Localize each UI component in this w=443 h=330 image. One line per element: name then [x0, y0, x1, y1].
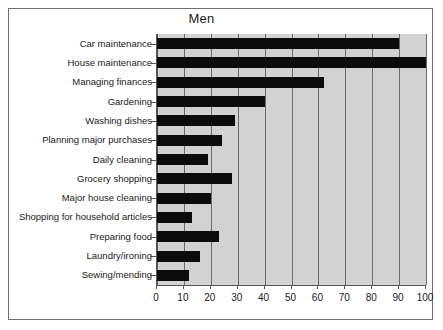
category-label: Washing dishes — [6, 115, 152, 126]
category-label: Shopping for household articles — [6, 211, 152, 222]
x-gridline — [292, 34, 293, 285]
x-gridline — [372, 34, 373, 285]
category-label: Major house cleaning — [6, 192, 152, 203]
x-tick-label: 30 — [222, 292, 252, 303]
x-tick-mark — [156, 285, 157, 289]
x-tick-label: 40 — [249, 292, 279, 303]
y-tick-mark — [150, 256, 156, 257]
bar — [157, 135, 222, 146]
x-tick-mark — [317, 285, 318, 289]
x-tick-label: 80 — [356, 292, 386, 303]
x-tick-label: 20 — [195, 292, 225, 303]
y-tick-mark — [150, 237, 156, 238]
category-label: Managing finances — [6, 76, 152, 87]
x-tick-label: 10 — [168, 292, 198, 303]
y-tick-mark — [150, 140, 156, 141]
bar — [157, 38, 399, 49]
x-tick-label: 100 — [410, 292, 440, 303]
bar — [157, 173, 232, 184]
category-label: Laundry/ironing — [6, 250, 152, 261]
x-gridline — [211, 34, 212, 285]
chart-figure: Men Car maintenanceHouse maintenanceMana… — [0, 0, 443, 330]
x-tick-label: 70 — [329, 292, 359, 303]
x-tick-mark — [344, 285, 345, 289]
x-tick-label: 50 — [276, 292, 306, 303]
x-gridline — [265, 34, 266, 285]
x-tick-mark — [210, 285, 211, 289]
category-label: Preparing food — [6, 231, 152, 242]
bar — [157, 251, 200, 262]
x-tick-mark — [398, 285, 399, 289]
x-tick-mark — [264, 285, 265, 289]
category-label: Car maintenance — [6, 38, 152, 49]
bar — [157, 193, 211, 204]
bar — [157, 115, 235, 126]
bar — [157, 212, 192, 223]
x-tick-label: 90 — [383, 292, 413, 303]
y-tick-mark — [150, 121, 156, 122]
category-label: Grocery shopping — [6, 173, 152, 184]
y-tick-mark — [150, 44, 156, 45]
plot-area — [156, 34, 426, 285]
bar — [157, 270, 189, 281]
category-axis-labels: Car maintenanceHouse maintenanceManaging… — [0, 0, 152, 330]
category-label: Sewing/mending — [6, 269, 152, 280]
plot-right-edge — [426, 34, 427, 285]
y-tick-mark — [150, 217, 156, 218]
category-label: Planning major purchases — [6, 134, 152, 145]
x-gridline — [345, 34, 346, 285]
y-tick-mark — [150, 160, 156, 161]
y-tick-mark — [150, 102, 156, 103]
y-tick-mark — [150, 82, 156, 83]
x-gridline — [318, 34, 319, 285]
y-tick-mark — [150, 275, 156, 276]
bar — [157, 57, 426, 68]
x-tick-mark — [291, 285, 292, 289]
category-label: Gardening — [6, 96, 152, 107]
category-label: House maintenance — [6, 57, 152, 68]
y-tick-mark — [150, 179, 156, 180]
x-tick-label: 60 — [302, 292, 332, 303]
x-tick-label: 0 — [141, 292, 171, 303]
bar — [157, 77, 324, 88]
bar — [157, 154, 208, 165]
bar — [157, 231, 219, 242]
x-tick-mark — [237, 285, 238, 289]
bar — [157, 96, 265, 107]
x-gridline — [399, 34, 400, 285]
y-tick-mark — [150, 198, 156, 199]
x-tick-mark — [371, 285, 372, 289]
category-label: Daily cleaning — [6, 154, 152, 165]
x-tick-mark — [183, 285, 184, 289]
x-gridline — [238, 34, 239, 285]
y-tick-mark — [150, 63, 156, 64]
x-tick-mark — [425, 285, 426, 289]
